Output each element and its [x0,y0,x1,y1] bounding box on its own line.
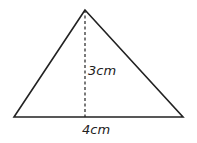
triangle-diagram: 3cm 4cm [0,0,197,143]
height-label: 3cm [88,63,116,78]
base-label: 4cm [82,122,110,137]
